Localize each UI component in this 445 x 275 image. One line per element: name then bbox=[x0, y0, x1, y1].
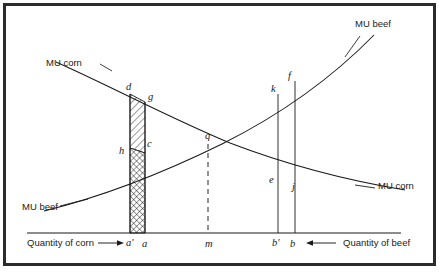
point-label-f: f bbox=[288, 71, 291, 82]
region-hc-axis bbox=[130, 148, 145, 233]
leader-mu-beef-left bbox=[60, 199, 88, 206]
label-mu-corn-left: MU corn bbox=[46, 58, 82, 68]
point-label-d: d bbox=[126, 82, 131, 93]
axis-tick-a: a bbox=[142, 239, 147, 250]
figure-container: MU corn MU beef MU beef MU corn d g h c … bbox=[0, 0, 445, 275]
leader-mu-beef-right bbox=[345, 36, 360, 57]
label-mu-beef-left: MU beef bbox=[22, 202, 58, 212]
axis-label-quantity-of-beef: Quantity of beef bbox=[343, 238, 410, 248]
arrow-quantity-of-corn bbox=[98, 240, 124, 246]
mu-corn-curve bbox=[56, 62, 405, 190]
axis-tick-m: m bbox=[205, 239, 213, 250]
arrow-quantity-of-beef bbox=[306, 240, 336, 246]
leader-mu-corn-left bbox=[100, 64, 112, 71]
point-label-q: q bbox=[205, 131, 210, 142]
mu-beef-curve bbox=[44, 35, 374, 211]
label-mu-beef-right: MU beef bbox=[355, 19, 391, 29]
axis-tick-b: b bbox=[290, 239, 295, 250]
point-label-j: j bbox=[292, 182, 295, 193]
point-label-c: c bbox=[147, 139, 152, 150]
point-label-g: g bbox=[148, 92, 153, 103]
axis-tick-a-prime: a' bbox=[126, 238, 134, 249]
point-label-k: k bbox=[271, 84, 276, 95]
economics-diagram-svg bbox=[0, 0, 445, 275]
point-label-e: e bbox=[269, 175, 274, 186]
axis-label-quantity-of-corn: Quantity of corn bbox=[27, 238, 94, 248]
point-label-h: h bbox=[119, 146, 124, 157]
label-mu-corn-right: MU corn bbox=[378, 181, 414, 191]
leader-mu-corn-right bbox=[355, 185, 375, 188]
axis-tick-b-prime: b' bbox=[272, 238, 280, 249]
